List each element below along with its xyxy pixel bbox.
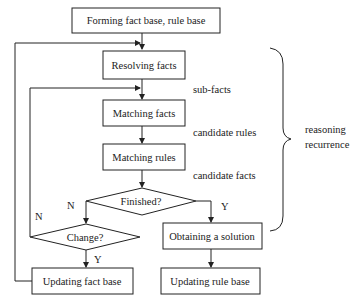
node-finished-label: Finished? [121, 196, 162, 207]
node-updating-fact-base: Updating fact base [32, 268, 133, 294]
node-forming-fact-base: Forming fact base, rule base [72, 8, 220, 33]
edge-label-candidate-facts: candidate facts [193, 170, 256, 181]
node-resolving-label: Resolving facts [111, 60, 176, 71]
node-obtaining-solution: Obtaining a solution [163, 223, 262, 249]
node-solution-label: Obtaining a solution [169, 231, 255, 242]
node-matching-rules-label: Matching rules [112, 152, 175, 163]
node-update-fact-label: Updating fact base [43, 276, 122, 287]
reasoning-brace [270, 48, 291, 231]
edge-label-change-y: Y [94, 254, 102, 265]
edge-label-finished-n: N [67, 200, 75, 211]
node-update-rule-label: Updating rule base [170, 276, 250, 287]
node-matching-facts: Matching facts [103, 100, 185, 126]
node-updating-rule-base: Updating rule base [161, 268, 260, 294]
node-change-label: Change? [67, 232, 104, 243]
flowchart-diagram: Forming fact base, rule base Resolving f… [0, 0, 357, 306]
edge-finished-yes-solution [196, 201, 211, 222]
node-forming-label: Forming fact base, rule base [87, 15, 206, 26]
edge-label-change-n: N [35, 211, 43, 222]
node-matching-facts-label: Matching facts [113, 108, 176, 119]
node-matching-rules: Matching rules [103, 144, 185, 170]
edge-label-sub-facts: sub-facts [193, 84, 231, 95]
brace-label-reasoning: reasoning [305, 124, 347, 135]
node-change-decision: Change? [30, 224, 140, 250]
node-resolving-facts: Resolving facts [103, 51, 185, 79]
node-finished-decision: Finished? [86, 188, 196, 215]
brace-label-recurrence: recurrence [305, 139, 350, 150]
edge-label-candidate-rules: candidate rules [193, 127, 256, 138]
edge-label-finished-y: Y [221, 201, 229, 212]
